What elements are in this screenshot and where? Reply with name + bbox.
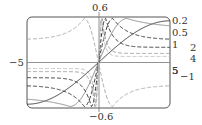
curve-label-5: 5	[172, 65, 178, 76]
curve-label-2: 2	[190, 42, 196, 53]
curve-labels: 0.20.51245−1	[172, 15, 196, 82]
chart: 0.6 −0.6 −5 5 0.20.51245−1	[0, 0, 202, 125]
curve-label-4: 4	[190, 53, 196, 64]
curve-label-0.2: 0.2	[172, 15, 188, 26]
y-min-tick-label: −0.6	[89, 111, 113, 122]
curve-label-0.5: 0.5	[172, 27, 188, 38]
curve-label-1: 1	[172, 39, 178, 50]
y-max-tick-label: 0.6	[92, 2, 108, 13]
curve-label--1: −1	[180, 71, 195, 82]
x-min-tick-label: −5	[9, 57, 24, 68]
